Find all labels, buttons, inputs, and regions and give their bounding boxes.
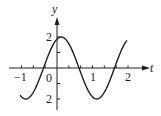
x-tick-label-2: 2: [125, 70, 131, 84]
x-axis-arrow-icon: [142, 66, 150, 71]
y-tick-label-neg2: 2: [46, 92, 52, 106]
x-axis-label: t: [150, 61, 154, 75]
x-tick-label-neg1: −1: [14, 70, 27, 84]
plot-area: t y −1 0 1 2 2 2: [0, 0, 161, 116]
x-tick-label-0: 0: [46, 71, 52, 85]
x-tick-label-1: 1: [90, 70, 96, 84]
y-axis-arrow-icon: [55, 17, 60, 25]
y-tick-label-2: 2: [46, 30, 52, 44]
chart: t y −1 0 1 2 2 2: [0, 0, 161, 116]
y-axis-label: y: [51, 2, 58, 16]
